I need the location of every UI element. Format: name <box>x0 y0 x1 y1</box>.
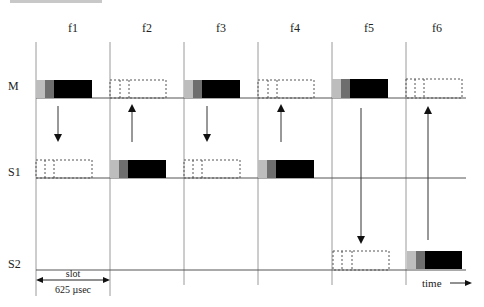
packet-m-f6-dashed <box>406 79 462 98</box>
packet-m-f5-solid <box>332 79 388 98</box>
row-label-m: M <box>8 79 19 93</box>
row-label-s2: S2 <box>8 257 21 271</box>
frequency-labels: f1 f2 f3 f4 f5 f6 <box>68 21 442 35</box>
freq-label-f6: f6 <box>432 21 442 35</box>
freq-label-f3: f3 <box>216 21 226 35</box>
time-axis-label: time <box>422 277 472 289</box>
packet-s1-f3-dashed <box>184 160 240 178</box>
packet-s1-f2-solid <box>110 160 166 178</box>
arrow-right-icon <box>103 277 110 283</box>
packet-m-f3-solid <box>184 80 240 98</box>
freq-label-f1: f1 <box>68 21 78 35</box>
slot-duration-label: 625 µsec <box>55 284 92 295</box>
packet-s1-f4-solid <box>258 160 314 178</box>
freq-label-f2: f2 <box>142 21 152 35</box>
packet-m-f1-solid <box>36 80 92 98</box>
packet-m-f2-dashed <box>110 80 166 98</box>
packet-s2-f5-dashed <box>333 251 389 270</box>
slot-duration-annotation: slot 625 µsec <box>36 268 110 295</box>
arrow-left-icon <box>36 277 43 283</box>
freq-label-f5: f5 <box>364 21 374 35</box>
freq-label-f4: f4 <box>290 21 300 35</box>
packet-s2-f6-solid <box>407 251 462 269</box>
arrow-right-icon <box>465 280 472 286</box>
packet-m-f4-dashed <box>258 80 314 98</box>
row-baselines <box>36 98 466 270</box>
row-label-s1: S1 <box>8 165 21 179</box>
slot-label: slot <box>66 268 81 279</box>
timing-diagram: f1 f2 f3 f4 f5 f6 M S1 S2 <box>0 0 484 307</box>
packet-s1-f1-dashed <box>36 160 92 178</box>
time-label: time <box>422 277 442 289</box>
